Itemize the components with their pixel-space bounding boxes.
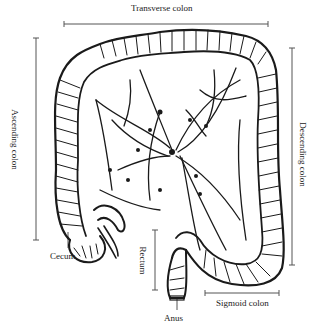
ascending-bracket (33, 38, 39, 240)
colon-illustration (0, 0, 321, 334)
anus-label: Anus (164, 314, 183, 323)
rectum-label: Rectum (138, 247, 147, 275)
ascending-colon-label: Ascending colon (10, 109, 19, 170)
rectum-bracket (152, 230, 158, 290)
colon-diagram: Transverse colon Ascending colon Descend… (0, 0, 321, 334)
transverse-bracket (64, 21, 268, 27)
descending-colon-label: Descending colon (298, 122, 307, 187)
transverse-colon-label: Transverse colon (131, 4, 192, 13)
cecum-label: Cecum (50, 252, 76, 261)
sigmoid-bracket (205, 290, 279, 296)
mesenteric-vessels (96, 68, 246, 250)
sigmoid-colon-label: Sigmoid colon (216, 299, 269, 308)
label-brackets (33, 21, 295, 310)
colon-outline (55, 30, 284, 300)
descending-bracket (289, 48, 295, 265)
